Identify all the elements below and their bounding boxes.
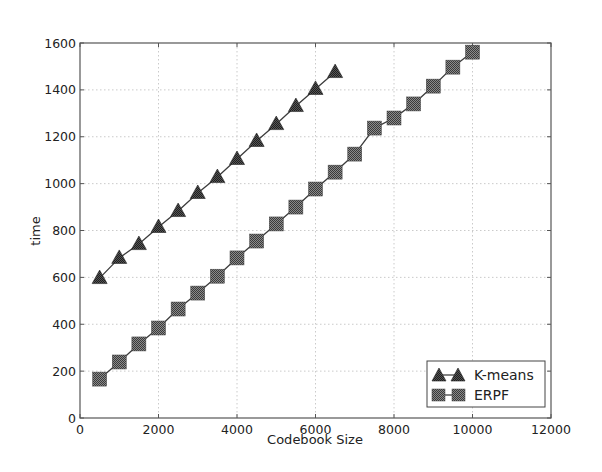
x-tick-label: 8000	[378, 422, 410, 437]
square-marker-icon	[367, 121, 381, 135]
line-chart: 020004000600080001000012000 020040060080…	[0, 0, 602, 472]
square-marker-icon	[230, 251, 244, 265]
triangle-marker-icon	[131, 236, 146, 250]
series-k-means	[92, 64, 343, 284]
square-marker-icon	[171, 302, 185, 316]
y-tick-label: 1000	[44, 176, 76, 191]
y-tick-label: 200	[52, 364, 76, 379]
triangle-marker-icon	[308, 81, 323, 95]
y-tick-label: 1200	[44, 129, 76, 144]
square-marker-icon	[289, 200, 303, 214]
square-marker-icon	[309, 182, 323, 196]
x-tick-label: 4000	[221, 422, 253, 437]
triangle-marker-icon	[171, 203, 186, 217]
square-marker-icon	[348, 147, 362, 161]
x-tick-label: 10000	[453, 422, 493, 437]
y-tick-label: 400	[52, 317, 76, 332]
triangle-marker-icon	[249, 133, 264, 147]
square-marker-icon	[407, 97, 421, 111]
square-marker-icon	[191, 286, 205, 300]
y-tick-label: 0	[68, 411, 76, 426]
triangle-marker-icon	[151, 219, 166, 233]
square-marker-icon	[152, 321, 166, 335]
legend-label-erpf: ERPF	[474, 387, 509, 403]
series-erpf	[93, 45, 480, 386]
square-marker-icon	[387, 111, 401, 125]
y-tick-label: 800	[52, 223, 76, 238]
square-marker-icon	[432, 389, 445, 401]
square-marker-icon	[466, 45, 480, 59]
square-marker-icon	[250, 234, 264, 248]
y-tick-label: 1400	[44, 82, 76, 97]
x-tick-label: 12000	[531, 422, 571, 437]
triangle-marker-icon	[112, 250, 127, 264]
square-marker-icon	[269, 217, 283, 231]
triangle-marker-icon	[328, 64, 343, 78]
square-marker-icon	[210, 269, 224, 283]
square-marker-icon	[132, 337, 146, 351]
square-marker-icon	[426, 79, 440, 93]
y-tick-label: 600	[52, 270, 76, 285]
x-tick-label: 0	[76, 422, 84, 437]
square-marker-icon	[328, 165, 342, 179]
square-marker-icon	[446, 60, 460, 74]
legend-label-kmeans: K-means	[474, 367, 534, 383]
triangle-marker-icon	[230, 151, 245, 165]
data-series	[92, 45, 479, 386]
legend: K-means ERPF	[427, 361, 545, 407]
x-tick-label: 2000	[143, 422, 175, 437]
triangle-marker-icon	[269, 116, 284, 130]
y-tick-label: 1600	[44, 36, 76, 51]
chart-figure: 020004000600080001000012000 020040060080…	[0, 0, 602, 472]
triangle-marker-icon	[210, 169, 225, 183]
square-marker-icon	[112, 355, 126, 369]
triangle-marker-icon	[190, 185, 205, 199]
triangle-marker-icon	[288, 98, 303, 112]
square-marker-icon	[452, 389, 465, 401]
x-axis-label: Codebook Size	[267, 432, 363, 447]
square-marker-icon	[93, 372, 107, 386]
y-axis-label: time	[28, 216, 43, 245]
